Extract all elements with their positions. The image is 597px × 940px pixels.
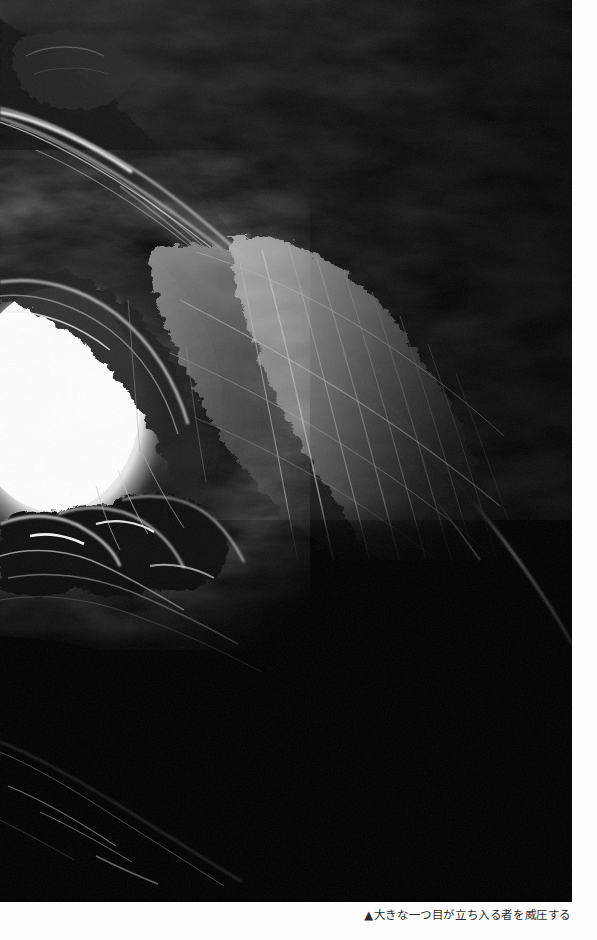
film-grain xyxy=(0,0,572,902)
book-page: ▲大きな一つ目が立ち入る者を威圧する xyxy=(0,0,597,940)
caption-text: ▲大きな一つ目が立ち入る者を威圧する xyxy=(364,907,572,923)
photo-caption: ▲大きな一つ目が立ち入る者を威圧する xyxy=(0,903,572,927)
photo-illustration xyxy=(0,0,572,902)
cave-interior-photograph xyxy=(0,0,572,902)
